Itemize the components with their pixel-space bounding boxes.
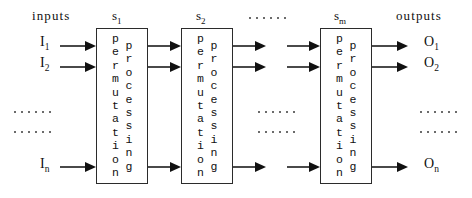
arrow-head-icon [85,62,96,72]
input-label-2-sub: 2 [45,63,50,73]
stage-s1-processing-text: processing [123,39,135,173]
stage-box-s2[interactable]: processing permutation [181,28,233,184]
input-ellipsis-row-1 [14,111,51,113]
arrow-head-icon [397,41,408,51]
input-ellipsis-row-2 [14,131,51,133]
connector-gap-to-sm-row2 [287,62,320,72]
output-label-2-sub: 2 [434,63,439,73]
output-label-n: On [424,156,439,174]
connector-input2-to-s1 [60,62,96,72]
stage-header-s1: s1 [112,8,122,26]
header-ellipsis [249,17,286,19]
input-label-n-sub: n [45,164,50,174]
connector-s1-to-s2-row1 [148,41,181,51]
output-label-2-base: O [424,55,434,70]
output-ellipsis-row-1 [420,111,457,113]
connector-s1-to-s2-rown [148,162,181,172]
input-label-1-sub: 1 [45,42,50,52]
arrow-head-icon [255,41,266,51]
stage-box-sm[interactable]: processing permutation [320,28,372,184]
arrow-head-icon [85,162,96,172]
arrow-head-icon [170,162,181,172]
arrow-head-icon [255,162,266,172]
inputs-header-label: inputs [32,8,70,24]
output-label-1-sub: 1 [434,42,439,52]
arrow-head-icon [85,41,96,51]
output-label-1: O1 [424,34,439,52]
arrow-head-icon [309,41,320,51]
pipeline-diagram: inputs s1 s2 sm outputs I1 I2 In process… [0,0,472,198]
arrow-head-icon [170,62,181,72]
input-label-2: I2 [40,55,49,73]
stage-box-s1[interactable]: processing permutation [96,28,148,184]
output-label-2: O2 [424,55,439,73]
input-label-1: I1 [40,34,49,52]
arrow-head-icon [397,62,408,72]
stage-header-sm-sub: m [339,16,346,26]
connector-sm-to-outputn [372,162,408,172]
stage-header-s2: s2 [196,8,206,26]
output-ellipsis-row-2 [420,131,457,133]
stage-header-sm: sm [334,8,346,26]
connector-s2-out-row1 [233,41,266,51]
connector-s2-out-rown [233,162,266,172]
stage-s2-processing-text: processing [208,39,220,173]
connector-inputn-to-s1 [60,162,96,172]
connector-s2-out-row2 [233,62,266,72]
arrow-head-icon [309,162,320,172]
arrow-head-icon [170,41,181,51]
stage-header-s1-sub: 1 [117,16,122,26]
output-label-n-base: O [424,156,434,171]
stage-sm-processing-text: processing [347,39,359,173]
connector-input1-to-s1 [60,41,96,51]
input-label-n: In [40,156,49,174]
arrow-head-icon [255,62,266,72]
connector-gap-to-sm-rown [287,162,320,172]
middle-ellipsis-row-1 [258,111,295,113]
arrow-head-icon [309,62,320,72]
output-label-n-sub: n [434,164,439,174]
middle-ellipsis-row-2 [258,131,295,133]
arrow-head-icon [397,162,408,172]
connector-sm-to-output1 [372,41,408,51]
stage-s2-permutation-text: permutation [195,32,207,179]
stage-s1-permutation-text: permutation [110,32,122,179]
connector-s1-to-s2-row2 [148,62,181,72]
output-label-1-base: O [424,34,434,49]
stage-header-s2-sub: 2 [201,16,206,26]
stage-sm-permutation-text: permutation [334,32,346,179]
connector-gap-to-sm-row1 [287,41,320,51]
outputs-header-label: outputs [396,8,442,24]
connector-sm-to-output2 [372,62,408,72]
